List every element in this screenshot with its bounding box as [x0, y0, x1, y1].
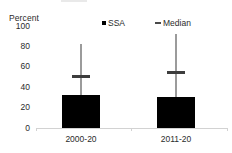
x-axis-baseline: [36, 128, 228, 129]
filled-square-marker-icon: [102, 21, 106, 25]
chart-container: Percent 100 80 60 40 20 0 SSA Median 200…: [0, 0, 232, 153]
y-axis-tick-label-0: 0: [4, 124, 30, 133]
y-axis-tick-label-20: 20: [4, 103, 30, 112]
legend-item-ssa: SSA: [102, 18, 125, 28]
x-axis-tickmark-end: [227, 128, 228, 131]
legend-label-ssa: SSA: [108, 18, 125, 28]
dash-marker-icon: [155, 22, 161, 24]
x-axis-tick-label-2011-20: 2011-20: [147, 134, 205, 144]
legend-label-median: Median: [163, 18, 191, 28]
x-axis-tickmark-start: [36, 128, 37, 131]
y-axis-tick-label-80: 80: [4, 42, 30, 51]
y-axis-tick-label-40: 40: [4, 83, 30, 92]
bar-ssa-2000-20: [62, 95, 100, 128]
x-axis-tick-label-2000-20: 2000-20: [52, 134, 110, 144]
legend-item-median: Median: [155, 18, 191, 28]
image-edge-artifact: [61, 0, 87, 2]
y-axis-tick-label-100: 100: [4, 22, 30, 31]
bar-ssa-2011-20: [157, 97, 195, 128]
error-bar-2011-20: [175, 34, 177, 97]
median-marker-2011-20: [167, 71, 185, 74]
median-marker-2000-20: [72, 75, 90, 78]
x-axis-tickmark-mid: [131, 128, 132, 131]
error-bar-2000-20: [80, 44, 82, 95]
y-axis-tick-label-60: 60: [4, 62, 30, 71]
